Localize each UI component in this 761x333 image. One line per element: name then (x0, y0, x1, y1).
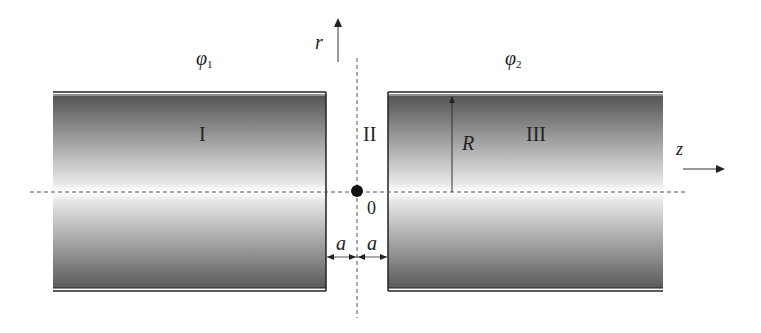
origin-label: 0 (367, 199, 376, 217)
r-axis-label: r (315, 32, 323, 52)
z-axis-arrow-icon (683, 165, 725, 173)
r-axis-arrow-icon (334, 18, 342, 62)
region-2-label: II (363, 124, 376, 144)
radius-label: R (462, 133, 474, 153)
gap-right-label: a (367, 233, 377, 253)
gap-left-label: a (336, 233, 346, 253)
z-axis-label: z (676, 140, 683, 158)
diagram-canvas (0, 0, 761, 333)
origin-point (351, 185, 363, 197)
region-3-label: III (526, 124, 546, 144)
phi1-label: φ1 (196, 48, 213, 70)
region-1-label: I (199, 124, 206, 144)
phi2-label: φ2 (505, 48, 522, 70)
